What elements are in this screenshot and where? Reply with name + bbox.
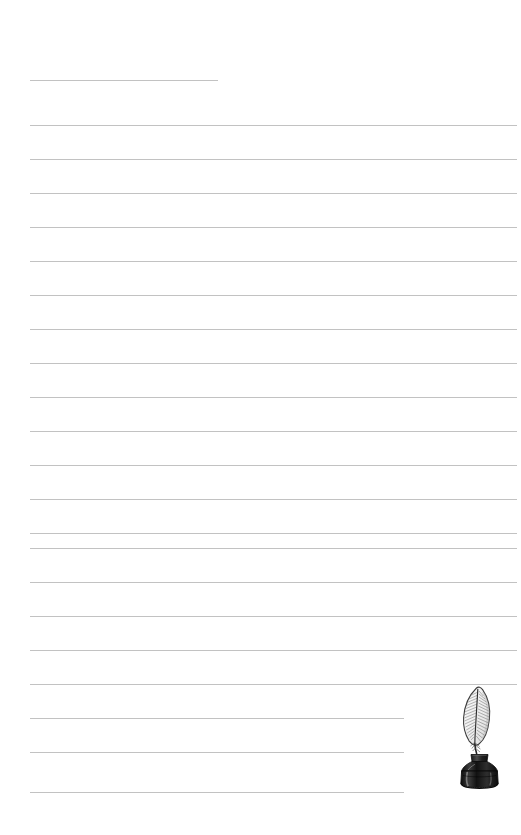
rule-line (30, 431, 517, 432)
rule-line (30, 193, 517, 194)
rule-line (30, 499, 517, 500)
rule-line (30, 159, 517, 160)
rule-line (30, 533, 517, 534)
title-line-rule (30, 80, 218, 81)
rule-line (30, 397, 517, 398)
rule-line (30, 363, 517, 364)
rule-line (30, 465, 517, 466)
rule-line (30, 295, 517, 296)
rule-line (30, 227, 517, 228)
rule-line (30, 684, 517, 685)
rule-line (30, 650, 517, 651)
rule-line (30, 261, 517, 262)
rule-line-short (30, 718, 404, 719)
rule-line (30, 329, 517, 330)
rule-line-short (30, 792, 404, 793)
rule-line-short (30, 752, 404, 753)
rule-line (30, 616, 517, 617)
rule-line (30, 548, 517, 549)
stationery-page (0, 0, 521, 835)
rule-line (30, 125, 517, 126)
rule-line (30, 582, 517, 583)
